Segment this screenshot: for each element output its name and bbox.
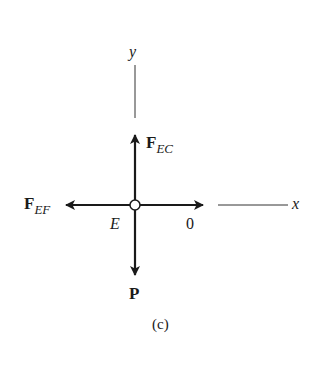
force-fec-name: F: [146, 133, 156, 152]
force-label-zero: 0: [186, 216, 194, 232]
force-fef-name: F: [24, 194, 34, 213]
force-label-p: P: [129, 285, 139, 302]
x-axis-label: x: [292, 196, 299, 212]
force-fec-subscript: EC: [156, 141, 173, 156]
y-axis-label: y: [129, 44, 136, 60]
force-label-fef: FEF: [24, 195, 50, 212]
joint-e-circle: [130, 200, 140, 210]
figure-caption: (c): [152, 317, 169, 332]
force-label-fec: FEC: [146, 134, 173, 151]
joint-label-e: E: [110, 216, 120, 232]
force-fef-subscript: EF: [34, 202, 50, 217]
